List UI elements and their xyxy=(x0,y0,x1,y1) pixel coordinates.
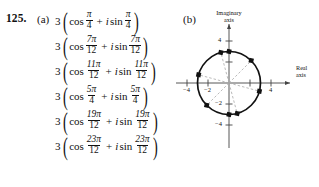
angle-fraction: 11π12 xyxy=(133,60,151,81)
solution-expression: 3(cos5π4+isin5π4) xyxy=(55,83,175,108)
fraction-numerator: 5π xyxy=(129,85,141,95)
angle-fraction: 7π12 xyxy=(128,35,142,56)
solution-expression: 3(cosπ4+isinπ4) xyxy=(55,8,175,33)
fraction-denominator: 12 xyxy=(137,145,149,156)
fraction-denominator: 4 xyxy=(125,20,132,31)
point-23pi-over-12 xyxy=(257,88,262,93)
point-3pi-over-2 xyxy=(226,112,231,117)
tick-label-imag-neg2: −2 xyxy=(215,99,222,106)
fraction-denominator: 4 xyxy=(88,95,95,106)
fraction-denominator: 12 xyxy=(136,70,148,81)
fraction-numerator: 19π xyxy=(134,110,150,120)
modulus: 3 xyxy=(55,115,61,127)
point-5pi-over-4 xyxy=(204,103,209,108)
fraction-numerator: 19π xyxy=(86,110,102,120)
complex-plane-svg xyxy=(172,0,319,187)
angle-fraction: 11π12 xyxy=(85,60,103,81)
cos-label: cos xyxy=(68,140,85,152)
solution-list: 3(cosπ4+isinπ4) 3(cos7π12+isin7π12) 3(co… xyxy=(55,8,175,158)
tick-label-real-neg2: −2 xyxy=(204,86,211,93)
angle-fraction: π4 xyxy=(124,10,133,31)
tick-label-imag-neg4: −4 xyxy=(215,120,222,127)
cos-label: cos xyxy=(68,40,85,52)
cos-label: cos xyxy=(68,15,85,27)
angle-fraction: 5π4 xyxy=(128,85,142,106)
imaginary-axis-arrow-icon xyxy=(227,24,231,29)
modulus: 3 xyxy=(55,140,61,152)
real-axis-arrow-icon xyxy=(285,81,290,85)
axes-group xyxy=(176,24,290,148)
ray-19pi-over-12 xyxy=(229,83,237,114)
exercise-number: 125. xyxy=(6,12,27,24)
point-pi-over-2 xyxy=(226,49,231,54)
fraction-numerator: 11π xyxy=(134,60,150,70)
tick-label-real-neg4: −4 xyxy=(183,86,190,93)
complex-plane-diagram: Imaginary axis Real axis xyxy=(172,0,319,187)
sin-label: sin xyxy=(118,115,133,127)
sin-label: sin xyxy=(118,140,133,152)
cos-label: cos xyxy=(68,65,85,77)
point-19pi-over-12 xyxy=(234,111,239,116)
fraction-denominator: 12 xyxy=(129,45,141,56)
solution-expression: 3(cos7π12+isin7π12) xyxy=(55,33,175,58)
angle-fraction: 19π12 xyxy=(85,110,103,131)
solution-expression: 3(cos11π12+isin11π12) xyxy=(55,58,175,83)
tick-label-imag-pos4: 4 xyxy=(218,36,221,43)
angle-fraction: 19π12 xyxy=(133,110,151,131)
cos-label: cos xyxy=(68,115,85,127)
part-a-label: (a) xyxy=(37,13,49,25)
ray-pi-over-4 xyxy=(229,61,251,83)
part-a-region: 125. (a) 3(cosπ4+isinπ4) 3(cos7π12+isin7… xyxy=(0,0,172,187)
sin-label: sin xyxy=(109,15,124,27)
sin-label: sin xyxy=(114,40,129,52)
ray-7pi-over-12 xyxy=(221,53,229,84)
fraction-denominator: 12 xyxy=(137,120,149,131)
sin-label: sin xyxy=(114,90,129,102)
angle-fraction: 23π12 xyxy=(133,135,151,156)
solution-expression: 3(cos19π12+isin19π12) xyxy=(55,108,175,133)
fraction-numerator: 11π xyxy=(86,60,102,70)
angle-fraction: 7π12 xyxy=(85,35,99,56)
fraction-denominator: 12 xyxy=(88,120,100,131)
modulus: 3 xyxy=(55,40,61,52)
fraction-numerator: 7π xyxy=(86,35,98,45)
fraction-denominator: 12 xyxy=(88,145,100,156)
point-7pi-over-12 xyxy=(218,50,223,55)
fraction-numerator: 23π xyxy=(134,135,150,145)
plus-sign: + xyxy=(103,115,115,127)
solution-expression: 3(cos23π12+isin23π12) xyxy=(55,133,175,158)
ray-11pi-over-12 xyxy=(199,75,229,83)
tick-label-real-pos4: 4 xyxy=(269,86,272,93)
cos-label: cos xyxy=(68,90,85,102)
modulus: 3 xyxy=(55,65,61,77)
ray-23pi-over-12 xyxy=(229,83,259,91)
fraction-numerator: π xyxy=(86,10,93,20)
fraction-numerator: π xyxy=(125,10,132,20)
plus-sign: + xyxy=(102,65,114,77)
plus-sign: + xyxy=(103,140,115,152)
fraction-denominator: 12 xyxy=(86,45,98,56)
plus-sign: + xyxy=(98,90,110,102)
textbook-exercise-page: 125. (a) 3(cosπ4+isinπ4) 3(cos7π12+isin7… xyxy=(0,0,319,187)
modulus: 3 xyxy=(55,15,61,27)
fraction-numerator: 23π xyxy=(86,135,102,145)
sin-label: sin xyxy=(118,65,133,77)
fraction-denominator: 4 xyxy=(132,95,139,106)
point-pi-over-4 xyxy=(248,58,253,63)
fraction-denominator: 12 xyxy=(88,70,100,81)
plus-sign: + xyxy=(98,40,110,52)
modulus: 3 xyxy=(55,90,61,102)
fraction-numerator: 5π xyxy=(86,85,98,95)
angle-fraction: 23π12 xyxy=(85,135,103,156)
fraction-denominator: 4 xyxy=(86,20,93,31)
plus-sign: + xyxy=(94,15,106,27)
fraction-numerator: 7π xyxy=(129,35,141,45)
angle-fraction: 5π4 xyxy=(85,85,99,106)
point-11pi-over-12 xyxy=(196,72,201,77)
angle-fraction: π4 xyxy=(85,10,94,31)
